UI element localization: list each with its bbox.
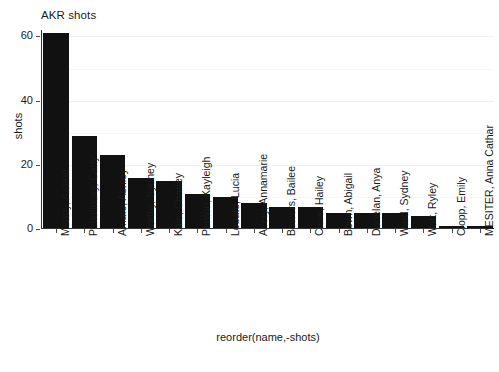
x-tick-mark: [310, 229, 311, 233]
x-tick-label: MESITER, Anna Cathar: [484, 125, 495, 236]
y-tick-mark: [36, 101, 40, 102]
x-tick-mark: [56, 229, 57, 233]
x-tick-label: Clere, Hailey: [314, 176, 325, 236]
x-tick-mark: [141, 229, 142, 233]
x-tick-label: Penton, Kayleigh: [201, 157, 212, 236]
y-tick-label: 60: [0, 30, 33, 41]
x-tick-label: Bown, Abigail: [343, 173, 354, 236]
x-tick-mark: [452, 229, 453, 233]
x-tick-label: Alfery, Annamarie: [258, 154, 269, 236]
x-tick-mark: [395, 229, 396, 233]
x-tick-label: Bowers, Bailee: [286, 166, 297, 236]
y-tick-mark: [36, 165, 40, 166]
x-tick-label: Amato, Ashley: [117, 169, 128, 236]
gridline-minor: [42, 69, 494, 70]
bar-chart-figure: AKR shots shots reorder(name,-shots) 020…: [0, 0, 499, 372]
y-tick-label: 20: [0, 159, 33, 170]
x-tick-label: Worthy, Sydney: [145, 163, 156, 236]
x-tick-label: Clopp, Emily: [456, 177, 467, 236]
x-tick-mark: [197, 229, 198, 233]
gridline-major: [42, 101, 494, 102]
x-axis-title: reorder(name,-shots): [42, 331, 494, 343]
x-tick-mark: [84, 229, 85, 233]
x-tick-label: Lobato, Lucia: [230, 173, 241, 236]
x-tick-label: Kale, Charley: [173, 173, 184, 236]
x-tick-label: Donelan, Anya: [371, 168, 382, 236]
gridline-major: [42, 36, 494, 37]
x-tick-mark: [367, 229, 368, 233]
y-tick-label: 40: [0, 95, 33, 106]
chart-title: AKR shots: [41, 9, 96, 21]
gridline-minor: [42, 133, 494, 134]
y-axis-line: [41, 30, 42, 229]
x-tick-mark: [226, 229, 227, 233]
y-tick-mark: [36, 36, 40, 37]
x-tick-mark: [282, 229, 283, 233]
x-tick-mark: [423, 229, 424, 233]
x-tick-mark: [339, 229, 340, 233]
x-tick-label: Meany, Aislinn: [60, 169, 71, 236]
x-tick-mark: [113, 229, 114, 233]
x-tick-label: Watt, Ryley: [427, 183, 438, 236]
y-tick-label: 0: [0, 223, 33, 234]
x-tick-mark: [254, 229, 255, 233]
x-tick-label: Ward, Sydney: [399, 170, 410, 236]
x-tick-mark: [169, 229, 170, 233]
x-tick-label: Pcholinsky, Carly: [88, 156, 99, 236]
x-tick-mark: [480, 229, 481, 233]
y-tick-mark: [36, 229, 40, 230]
